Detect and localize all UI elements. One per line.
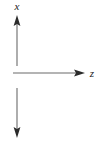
vertical-up-arrow bbox=[14, 15, 21, 66]
coordinate-axis-diagram: x z bbox=[0, 0, 102, 143]
vertical-axis-label: x bbox=[14, 0, 20, 12]
axis-diagram-canvas: x z bbox=[0, 0, 102, 143]
vertical-down-arrow bbox=[14, 88, 21, 138]
horizontal-right-arrow bbox=[13, 69, 85, 76]
horizontal-axis-label: z bbox=[89, 67, 95, 79]
